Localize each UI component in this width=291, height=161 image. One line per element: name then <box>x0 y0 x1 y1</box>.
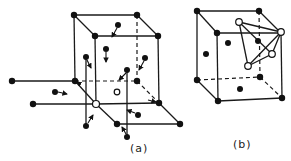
tetrahedron <box>239 22 281 66</box>
atom <box>134 12 140 18</box>
face-atom <box>255 38 261 44</box>
open-site <box>278 29 285 36</box>
atom <box>134 78 140 84</box>
atom <box>279 95 285 101</box>
face-atom <box>237 86 243 92</box>
atom-displaced <box>83 123 89 129</box>
panel-a-label: (a) <box>130 142 148 155</box>
atom <box>30 101 36 107</box>
atom-displaced <box>124 67 130 73</box>
atom-displaced <box>83 54 89 60</box>
atom-displaced <box>103 46 109 52</box>
panel-a <box>9 12 183 140</box>
face-atom <box>203 51 209 57</box>
atom-displaced <box>115 22 121 28</box>
atom <box>257 74 263 80</box>
atom-displaced <box>135 112 141 118</box>
panel-b-label: (b) <box>233 138 252 151</box>
panel-b <box>194 8 285 104</box>
atom <box>177 121 183 127</box>
diagram-canvas <box>0 0 291 161</box>
atom <box>194 8 200 14</box>
atom-displaced <box>142 55 148 61</box>
atom-displaced <box>52 89 58 95</box>
atom <box>92 33 98 39</box>
atom <box>9 78 15 84</box>
atom <box>155 33 161 39</box>
atom <box>156 100 162 106</box>
atom <box>194 77 200 83</box>
open-site <box>269 51 276 58</box>
atom <box>114 121 120 127</box>
atom-displaced <box>124 134 130 140</box>
face-atom <box>225 40 231 46</box>
atom <box>215 98 221 104</box>
vacancy-main <box>93 101 100 108</box>
open-site <box>245 63 252 70</box>
atom <box>72 78 78 84</box>
vacancy-small <box>114 89 120 95</box>
atom <box>71 12 77 18</box>
atom <box>256 8 262 14</box>
atom <box>214 30 220 36</box>
open-site <box>236 19 243 26</box>
